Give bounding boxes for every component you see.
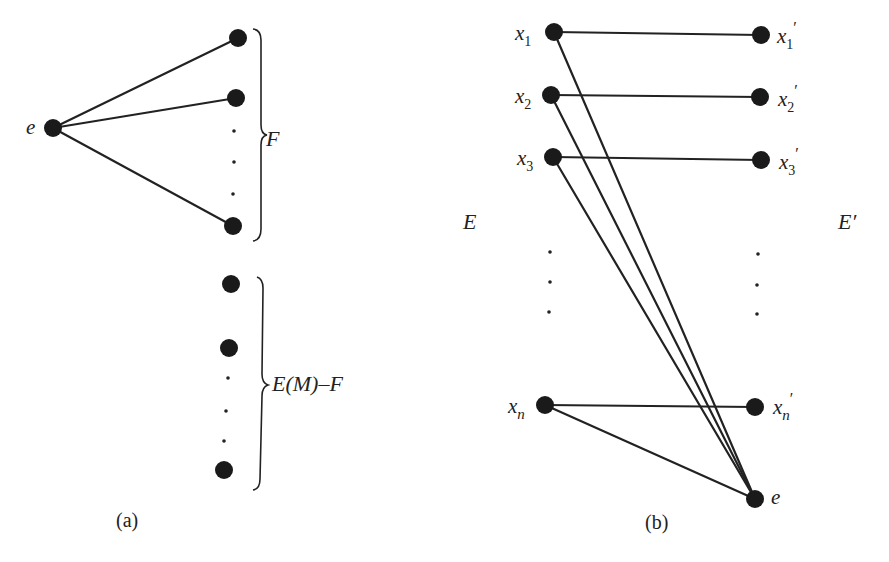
panel-a: e F E(M)–F (a) [26,29,343,532]
node-m2 [220,339,238,357]
ellipsis-dot [232,160,236,164]
label-em-minus-f-text: E(M)–F [271,371,343,396]
node-f2 [227,89,245,107]
ellipsis-dot [755,312,759,316]
ellipsis-dot [755,283,759,287]
caption-b: (b) [645,511,668,534]
label-x1p-prime: ′ [793,19,797,36]
label-e-b: e [771,485,780,509]
label-xn: xn [507,394,525,422]
edge-e-f2 [53,98,236,128]
node-x3 [544,148,562,166]
label-x3p-sub: 3 [788,163,795,178]
label-x1-sub: 1 [524,34,531,49]
caption-a: (a) [116,509,138,532]
ellipsis-dot [226,376,230,380]
label-x3: x3 [516,146,533,174]
node-fk [224,217,242,235]
ellipsis-dot [231,192,235,196]
edge-x1-x1p [554,32,761,35]
label-e: e [26,115,35,139]
node-e-b [746,490,764,508]
label-em-minus-f: E(M)–F [271,371,343,396]
label-F: F [265,126,280,151]
edge-xn-xnp [545,405,755,407]
label-xn-sub: n [517,406,525,422]
label-x2p-sub: 2 [787,100,794,115]
label-x2p-prime: ′ [794,82,798,99]
node-f1 [229,29,247,47]
ellipsis-dot [232,129,236,133]
edge-x2-e [551,95,755,499]
label-set-E: E [462,209,477,234]
label-set-E-prime: E′ [837,209,857,234]
edge-e-f1 [53,38,238,128]
label-x3-sub: 3 [526,159,533,174]
ellipsis-dot [548,280,552,284]
brace-f [253,29,267,241]
label-x1: x1 [514,21,531,49]
label-xn-prime: xn′ [772,390,793,423]
edge-x1-e [554,32,755,499]
ellipsis-dot [547,310,551,314]
label-x3-prime: x3′ [778,145,799,178]
label-x3p-prime: ′ [795,145,799,162]
node-x3-prime [752,151,770,169]
ellipsis-dot [222,439,226,443]
node-xn [536,396,554,414]
node-x2-prime [751,88,769,106]
label-x1p-sub: 1 [786,37,793,52]
node-e [44,119,62,137]
node-x1-prime [752,26,770,44]
edge-xn-e [545,405,755,499]
node-mk [215,461,233,479]
label-xnp-sub: n [782,407,790,423]
node-x1 [545,23,563,41]
label-x2: x2 [514,84,531,112]
ellipsis-dot [548,250,552,254]
edge-e-fk [53,128,233,226]
ellipsis-dot [756,252,760,256]
label-xnp-prime: ′ [790,390,794,407]
node-xn-prime [746,398,764,416]
label-x1-prime: x1′ [776,19,797,52]
figure-canvas: e F E(M)–F (a) [0,0,889,562]
ellipsis-dot [224,409,228,413]
label-x2-prime: x2′ [777,82,798,115]
panel-b: e x1 x2 x3 xn x1′ x2′ x3′ xn′ [462,19,857,534]
edge-x3-e [553,157,755,499]
label-x2-sub: 2 [524,97,531,112]
node-x2 [542,86,560,104]
brace-em-f [253,277,268,490]
node-m1 [222,275,240,293]
